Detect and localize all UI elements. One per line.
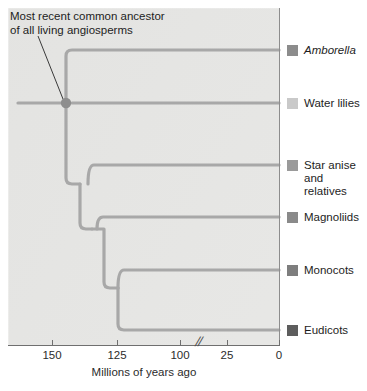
- annotation-leader-line: [38, 36, 63, 99]
- axis-tick-label: 0: [276, 349, 282, 361]
- branch-eudicots: [118, 288, 279, 330]
- branch-n4-spine: [92, 229, 118, 288]
- legend-item-eudicots: Eudicots: [287, 324, 348, 337]
- axis-tick: [52, 340, 53, 346]
- legend-swatch-icon: [287, 160, 298, 171]
- axis-title: Millions of years ago: [92, 366, 197, 378]
- legend-item-star-anise: Star anise and relatives: [287, 159, 367, 198]
- legend-item-monocots: Monocots: [287, 264, 354, 277]
- axis-tick-label: 100: [170, 349, 189, 361]
- branch-monocots: [118, 270, 279, 288]
- figure-root: Most recent common ancestor of all livin…: [0, 0, 367, 391]
- branch-magnoliids: [97, 217, 279, 229]
- axis-tick: [117, 340, 118, 346]
- legend-swatch-icon: [287, 45, 298, 56]
- legend-item-amborella: Amborella: [287, 44, 356, 57]
- legend-swatch-icon: [287, 98, 298, 109]
- legend-item-water-lilies: Water lilies: [287, 97, 360, 110]
- axis-vertical-rule: [279, 8, 280, 345]
- branch-root-spine: [66, 103, 80, 184]
- axis-tick: [180, 340, 181, 346]
- legend-item-magnoliids: Magnoliids: [287, 211, 359, 224]
- axis-tick-label: 150: [42, 349, 61, 361]
- legend-swatch-icon: [287, 325, 298, 336]
- legend-label: Amborella: [304, 44, 356, 57]
- branch-amborella: [66, 50, 279, 103]
- legend-swatch-icon: [287, 212, 298, 223]
- legend-label: Water lilies: [304, 97, 360, 110]
- legend-label: Magnoliids: [304, 211, 359, 224]
- axis-tick-label: 25: [221, 349, 234, 361]
- branch-star-anise: [88, 165, 279, 184]
- ancestor-node-dot: [61, 98, 71, 108]
- axis-tick: [279, 340, 280, 346]
- axis-tick-label: 125: [107, 349, 126, 361]
- annotation-text: Most recent common ancestor of all livin…: [10, 9, 165, 37]
- legend-label: Star anise and relatives: [304, 159, 367, 198]
- legend-label: Eudicots: [304, 324, 348, 337]
- legend-swatch-icon: [287, 265, 298, 276]
- branch-n3-spine: [80, 184, 92, 229]
- axis-tick: [227, 340, 228, 346]
- axis-horizontal-rule: [8, 345, 279, 346]
- legend-label: Monocots: [304, 264, 354, 277]
